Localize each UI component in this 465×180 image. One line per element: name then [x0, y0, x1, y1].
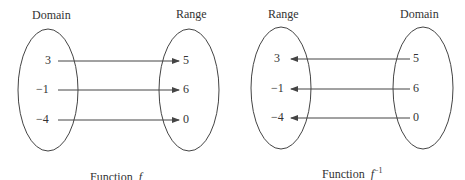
caption-text: Function	[322, 167, 365, 180]
domain-value-inverse: 0	[413, 110, 419, 125]
inverse-superscript: −1	[374, 166, 383, 175]
range-label: Range	[176, 7, 207, 22]
caption-function-f: Function f	[90, 170, 142, 180]
domain-value: 3	[45, 53, 51, 68]
range-label-inverse: Range	[268, 7, 299, 22]
caption-text: Function	[90, 170, 133, 180]
caption-function-f-inverse: Function f−1	[322, 166, 383, 180]
domain-value-inverse: 5	[413, 51, 419, 66]
domain-value-inverse: 6	[413, 81, 419, 96]
range-value-inverse: −1	[271, 81, 284, 96]
domain-label-inverse: Domain	[400, 7, 439, 22]
domain-value: −4	[36, 112, 49, 127]
range-value: 6	[183, 82, 189, 97]
range-value-inverse: 3	[274, 51, 280, 66]
domain-value: −1	[36, 82, 49, 97]
mapping-diagrams-canvas	[0, 0, 465, 180]
domain-label: Domain	[32, 8, 71, 23]
function-symbol: f	[139, 170, 142, 180]
domain-ellipse-inverse	[393, 27, 453, 149]
range-value: 5	[183, 53, 189, 68]
range-value: 0	[183, 112, 189, 127]
range-value-inverse: −4	[271, 110, 284, 125]
